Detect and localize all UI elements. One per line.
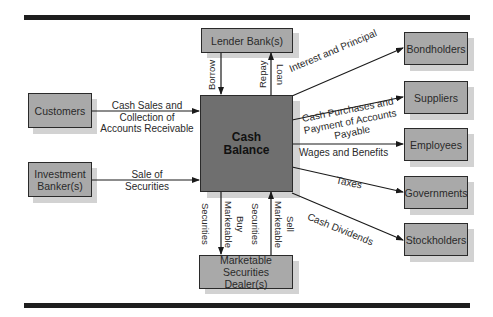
cash-balance-line1: Cash — [232, 130, 261, 144]
securities-dealer-line2: Securities Dealer(s) — [223, 266, 269, 290]
investment-bankers-label-line1: Investment — [34, 168, 85, 180]
buy-marketable-label: Marketable — [222, 195, 233, 253]
stockholders-box: Stockholders — [404, 223, 468, 256]
buy-securities-label: Securities — [199, 195, 210, 253]
stockholders-label: Stockholders — [406, 234, 467, 246]
investment-flow-label: Sale of Securities — [95, 169, 199, 192]
suppliers-label: Suppliers — [414, 92, 458, 104]
loan-label: Loan — [274, 56, 285, 93]
cash-balance-box: Cash Balance — [200, 95, 293, 192]
investment-bankers-label-line2: Banker(s) — [37, 180, 83, 192]
bondholders-label: Bondholders — [407, 43, 466, 55]
employees-label: Employees — [410, 139, 462, 151]
investment-bankers-box: Investment Banker(s) — [28, 162, 92, 197]
securities-dealer-line1: Marketable — [220, 254, 272, 266]
lender-bank-box: Lender Bank(s) — [201, 28, 293, 53]
governments-label: Governments — [404, 187, 467, 199]
buy-label: Buy — [234, 195, 245, 253]
cash-balance-label: Cash Balance — [223, 131, 269, 157]
employees-flow-label: Wages and Benefits — [299, 147, 388, 159]
repay-label: Repay — [258, 56, 269, 93]
customers-flow-label: Cash Sales and Collection of Accounts Re… — [95, 100, 199, 135]
buy-line3: Securities — [200, 203, 211, 245]
employees-box: Employees — [404, 128, 468, 161]
buy-line2: Marketable — [223, 201, 234, 248]
investment-flow-line1: Sale of — [131, 169, 162, 180]
customers-flow-line2: Collection of — [119, 112, 174, 123]
securities-dealer-box: Marketable Securities Dealer(s) — [199, 255, 293, 289]
customers-label: Customers — [35, 105, 86, 117]
customers-box: Customers — [28, 93, 92, 128]
sell-securities-label: Securities — [249, 195, 260, 253]
suppliers-box: Suppliers — [404, 81, 468, 114]
sell-line3: Securities — [250, 203, 261, 245]
investment-bankers-label: Investment Banker(s) — [34, 168, 85, 192]
customers-flow-line1: Cash Sales and — [112, 100, 183, 111]
sell-marketable-label: Marketable — [272, 195, 283, 253]
sell-label: Sell — [284, 195, 295, 253]
investment-flow-line2: Securities — [125, 181, 169, 192]
governments-box: Governments — [404, 176, 468, 209]
sell-line1: Sell — [285, 216, 296, 232]
customers-flow-line3: Accounts Receivable — [100, 123, 193, 134]
securities-dealer-label: Marketable Securities Dealer(s) — [200, 254, 292, 290]
bondholders-box: Bondholders — [404, 32, 468, 65]
sell-line2: Marketable — [273, 201, 284, 248]
cash-balance-line2: Balance — [223, 143, 269, 157]
borrow-label: Borrow — [207, 56, 218, 93]
buy-line1: Buy — [235, 216, 246, 232]
lender-bank-label: Lender Bank(s) — [211, 35, 283, 47]
